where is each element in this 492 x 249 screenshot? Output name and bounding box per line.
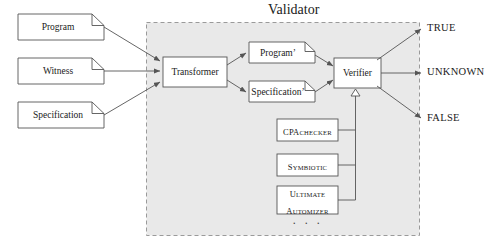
output-true-label: TRUE xyxy=(427,23,456,34)
output-false-label: FALSE xyxy=(427,113,460,124)
transformer-shape xyxy=(163,57,227,87)
page-title: Validator xyxy=(268,3,319,17)
tool-symbiotic-shape xyxy=(277,154,338,176)
tool-ultimate-automizer-shape xyxy=(277,186,338,214)
tool-cpachecker-shape xyxy=(277,119,338,141)
input-witness-shape xyxy=(18,58,104,84)
artifact-program-prime-shape xyxy=(249,42,315,63)
verifier-shape xyxy=(334,58,381,88)
diagram-vector-layer xyxy=(0,0,492,249)
output-unknown-label: UNKNOWN xyxy=(427,67,485,78)
input-program-shape xyxy=(18,14,104,40)
input-specification-shape xyxy=(18,102,104,128)
artifact-specification-prime-shape xyxy=(249,81,315,102)
validator-architecture-diagram: Validator Program Witness Specification … xyxy=(0,0,492,249)
